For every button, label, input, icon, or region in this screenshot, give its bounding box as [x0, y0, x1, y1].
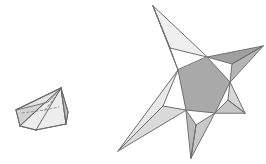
figure-canvas: Two shaded polyhedra line drawings: [0, 0, 266, 164]
